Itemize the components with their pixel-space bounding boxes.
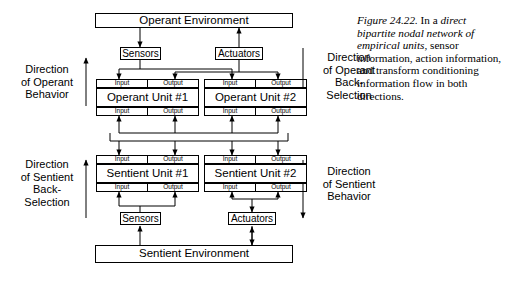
sensors-top-box: Sensors xyxy=(120,47,161,60)
caption-figure-number: Figure 24.22. xyxy=(357,14,418,26)
operant-unit-1-top-ports: Input Output xyxy=(96,79,199,88)
sentient-environment-box: Sentient Environment xyxy=(95,245,293,263)
sentient-unit-2-bottom-ports: Input Output xyxy=(204,183,307,192)
figure-24-22: Operant Environment Sensors Actuators In… xyxy=(0,0,517,284)
direction-sentient-back-selection-label: Direction of Sentient Back- Selection xyxy=(12,158,82,208)
sensors-bottom-box: Sensors xyxy=(120,212,161,225)
sentient-unit-2: Input Output Sentient Unit #2 Input Outp… xyxy=(204,155,307,192)
output-label: Output xyxy=(147,80,198,87)
operant-unit-1-title: Operant Unit #1 xyxy=(96,88,199,107)
sentient-unit-1-top-ports: Input Output xyxy=(96,155,199,164)
output-label: Output xyxy=(147,184,198,191)
operant-unit-1-bottom-ports: Input Output xyxy=(96,107,199,116)
operant-unit-2-bottom-ports: Input Output xyxy=(204,107,307,116)
operant-unit-2-title: Operant Unit #2 xyxy=(204,88,307,107)
output-label: Output xyxy=(255,184,306,191)
output-label: Output xyxy=(255,80,306,87)
direction-operant-behavior-label: Direction of Operant Behavior xyxy=(12,63,82,101)
operant-unit-2-top-ports: Input Output xyxy=(204,79,307,88)
input-label: Input xyxy=(205,156,255,163)
figure-caption: Figure 24.22. In a direct bipartite noda… xyxy=(357,14,507,102)
sentient-unit-1-title: Sentient Unit #1 xyxy=(96,164,199,183)
input-label: Input xyxy=(205,80,255,87)
input-label: Input xyxy=(205,108,255,115)
sentient-unit-2-top-ports: Input Output xyxy=(204,155,307,164)
operant-environment-box: Operant Environment xyxy=(95,13,293,28)
sentient-unit-1-bottom-ports: Input Output xyxy=(96,183,199,192)
output-label: Output xyxy=(147,108,198,115)
sentient-unit-1: Input Output Sentient Unit #1 Input Outp… xyxy=(96,155,199,192)
input-label: Input xyxy=(97,108,147,115)
operant-unit-1: Input Output Operant Unit #1 Input Outpu… xyxy=(96,79,199,116)
operant-unit-2: Input Output Operant Unit #2 Input Outpu… xyxy=(204,79,307,116)
actuators-top-box: Actuators xyxy=(215,47,263,60)
direction-sentient-behavior-label: Direction of Sentient Behavior xyxy=(310,165,388,203)
output-label: Output xyxy=(255,156,306,163)
input-label: Input xyxy=(205,184,255,191)
output-label: Output xyxy=(255,108,306,115)
caption-text-part-1: In a xyxy=(418,14,441,26)
input-label: Input xyxy=(97,80,147,87)
actuators-bottom-box: Actuators xyxy=(228,212,276,225)
sentient-unit-2-title: Sentient Unit #2 xyxy=(204,164,307,183)
input-label: Input xyxy=(97,156,147,163)
input-label: Input xyxy=(97,184,147,191)
output-label: Output xyxy=(147,156,198,163)
